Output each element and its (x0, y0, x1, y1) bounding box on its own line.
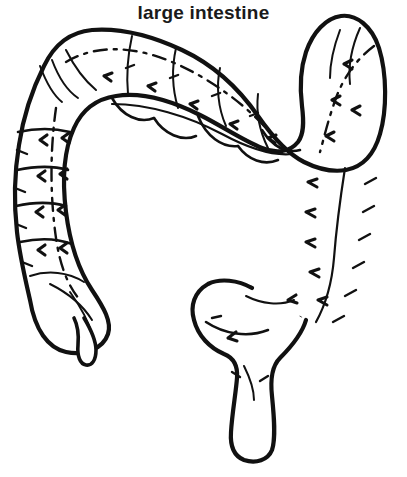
haustra-tick-mark (306, 239, 315, 247)
haustra-tick-mark (288, 295, 297, 303)
wall-notch (353, 262, 364, 268)
transverse-haustra-edge (154, 118, 196, 138)
wall-notch (363, 206, 374, 212)
wall-notch (345, 290, 356, 296)
wall-notch (333, 316, 344, 322)
haustra-tick-mark (310, 269, 319, 277)
sigmoid-bulge-outline (193, 281, 306, 462)
haustra-tick-mark (308, 179, 317, 187)
wall-notch (359, 234, 370, 240)
haustra-tick-mark (306, 209, 315, 217)
illustration-page: large intestine (0, 0, 407, 477)
large-intestine-diagram (0, 0, 407, 477)
wall-notch (365, 178, 376, 184)
transverse-haustra-edge (112, 98, 154, 120)
